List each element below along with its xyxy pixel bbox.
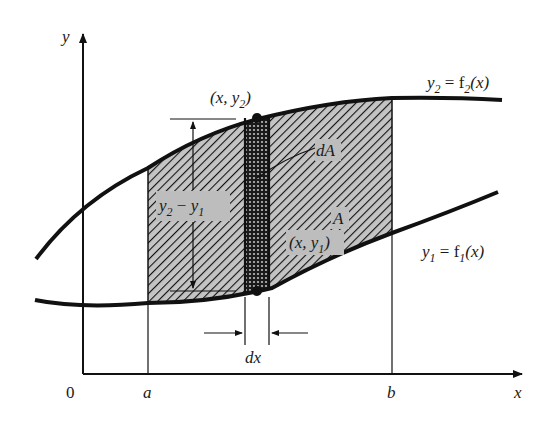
b-label: b	[387, 383, 396, 402]
strip-dA	[245, 113, 269, 296]
dx-dimension	[204, 297, 308, 345]
point-top-label: (x, y2)	[210, 88, 251, 111]
a-label: a	[143, 383, 152, 402]
origin-label: 0	[66, 383, 75, 402]
dx-label: dx	[245, 348, 262, 367]
y-axis-label: y	[60, 27, 70, 46]
A-label: A	[332, 209, 344, 228]
dA-label: dA	[316, 141, 336, 160]
upper-curve-label: y2 = f2(x)	[425, 73, 490, 96]
x-axis-label: x	[513, 383, 522, 402]
lower-curve-label: y1 = f1(x)	[420, 242, 485, 265]
area-between-curves-diagram: y x 0 a b y2 = f2(x) y1 = f1(x) (x, y2) …	[0, 0, 550, 428]
